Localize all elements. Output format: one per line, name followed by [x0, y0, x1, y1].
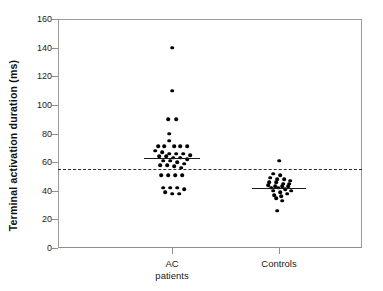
data-point: [175, 160, 179, 164]
y-axis-tick: [52, 248, 58, 249]
data-point: [170, 46, 174, 50]
y-axis-tick-label: 60: [8, 158, 52, 167]
data-point: [156, 145, 160, 149]
chart-figure: Terminal activation duration (ms) 020406…: [0, 0, 383, 291]
data-point: [278, 190, 282, 194]
data-point: [167, 132, 171, 136]
data-point: [268, 176, 272, 180]
x-axis-category-label-line: Controls: [219, 258, 339, 270]
data-point: [153, 149, 157, 153]
data-point: [274, 196, 278, 200]
data-point: [285, 192, 289, 196]
cutoff-reference-line: [58, 169, 362, 170]
data-point: [172, 145, 176, 149]
data-point: [278, 173, 282, 177]
data-point: [188, 153, 192, 157]
data-point: [162, 145, 166, 149]
data-point: [161, 186, 165, 190]
data-point: [159, 173, 163, 177]
x-axis-tick: [279, 248, 280, 254]
data-point: [178, 145, 182, 149]
data-point: [175, 186, 179, 190]
group-mean-bar: [252, 188, 306, 189]
data-point: [166, 173, 170, 177]
data-point: [170, 89, 174, 93]
data-point: [174, 152, 178, 156]
y-axis-tick-label: 80: [8, 129, 52, 138]
y-axis-tick-label: 0: [8, 244, 52, 253]
data-point: [168, 159, 172, 163]
data-point: [161, 159, 165, 163]
data-point: [160, 150, 164, 154]
y-axis-tick-label: 40: [8, 186, 52, 195]
x-axis-category-label: ACpatients: [112, 258, 232, 282]
data-point: [181, 152, 185, 156]
x-axis-category-label: Controls: [219, 258, 339, 270]
data-point: [182, 162, 186, 166]
data-point: [158, 163, 162, 167]
data-point: [275, 209, 279, 213]
data-point: [185, 145, 189, 149]
data-point: [167, 139, 171, 143]
data-point: [165, 163, 169, 167]
data-point: [173, 173, 177, 177]
y-axis-tick-label: 140: [8, 43, 52, 52]
data-point: [271, 189, 275, 193]
data-point: [180, 173, 184, 177]
data-point: [277, 159, 281, 163]
data-point: [172, 165, 176, 169]
y-axis-tick-label: 20: [8, 215, 52, 224]
x-axis-category-label-line: AC: [112, 258, 232, 270]
y-axis-tick-label: 160: [8, 15, 52, 24]
data-point: [274, 180, 278, 184]
data-point: [170, 192, 174, 196]
plot-area: [58, 19, 362, 248]
data-point: [279, 195, 283, 199]
data-point: [179, 166, 183, 170]
data-point: [280, 199, 284, 203]
data-point: [174, 117, 178, 121]
group-mean-bar: [144, 158, 200, 159]
data-point: [282, 178, 286, 182]
x-axis-category-label-line: patients: [112, 270, 232, 282]
x-axis-tick: [172, 248, 173, 254]
data-point: [177, 192, 181, 196]
data-point: [166, 117, 170, 121]
data-point: [271, 172, 275, 176]
data-point: [289, 189, 293, 193]
data-point: [168, 186, 172, 190]
data-point: [163, 190, 167, 194]
data-point: [182, 188, 186, 192]
y-axis-tick-label: 120: [8, 72, 52, 81]
y-axis-tick-label: 100: [8, 100, 52, 109]
